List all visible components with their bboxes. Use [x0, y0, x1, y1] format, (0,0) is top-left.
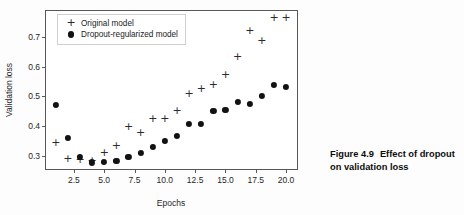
- data-point: [174, 133, 180, 139]
- y-axis-label: Validation loss: [4, 63, 14, 117]
- data-point: [160, 115, 169, 124]
- x-axis-tick-label: 20.0: [278, 175, 295, 185]
- data-point: [185, 90, 194, 99]
- data-point: [282, 13, 291, 22]
- y-axis-tick: [42, 156, 46, 157]
- plus-marker-icon: [63, 18, 79, 29]
- data-point: [283, 84, 289, 90]
- data-point: [222, 107, 228, 113]
- data-point: [162, 137, 168, 143]
- legend-label: Original model: [81, 19, 134, 28]
- data-point: [100, 148, 109, 157]
- x-axis-label: Epochs: [157, 198, 185, 208]
- x-axis-tick: [256, 169, 257, 173]
- data-point: [63, 155, 72, 164]
- data-point: [221, 70, 230, 79]
- y-axis-tick: [42, 126, 46, 127]
- data-point: [51, 138, 60, 147]
- data-point: [112, 141, 121, 150]
- x-axis-tick-label: 5.0: [98, 175, 110, 185]
- x-axis-tick: [165, 169, 166, 173]
- x-axis-tick: [135, 169, 136, 173]
- data-point: [269, 13, 278, 22]
- y-axis-tick: [42, 96, 46, 97]
- y-axis-tick: [42, 37, 46, 38]
- data-point: [245, 26, 254, 35]
- data-point: [65, 135, 71, 141]
- legend-marker: [67, 19, 76, 28]
- x-axis-tick-label: 12.5: [187, 175, 204, 185]
- data-point: [257, 36, 266, 45]
- y-axis-tick-label: 0.4: [28, 121, 40, 131]
- x-axis-tick: [286, 169, 287, 173]
- figure-container: 0.30.40.50.60.72.55.07.510.012.515.017.5…: [0, 0, 464, 215]
- data-point: [113, 158, 119, 164]
- x-axis-tick: [74, 169, 75, 173]
- chart-legend: Original modelDropout-regularized model: [57, 14, 186, 45]
- filled-circle-marker-icon: [63, 29, 79, 40]
- data-point: [197, 84, 206, 93]
- y-axis-tick-label: 0.3: [28, 151, 40, 161]
- data-point: [172, 107, 181, 116]
- data-point: [186, 121, 192, 127]
- y-axis-tick-label: 0.7: [28, 32, 40, 42]
- legend-entry: Dropout-regularized model: [63, 29, 178, 40]
- x-axis-tick-label: 15.0: [217, 175, 234, 185]
- figure-number: Figure 4.9: [330, 149, 374, 159]
- data-point: [101, 158, 107, 164]
- x-axis-tick-label: 17.5: [247, 175, 264, 185]
- x-axis-tick-label: 7.5: [129, 175, 141, 185]
- data-point: [137, 150, 143, 156]
- data-point: [125, 154, 131, 160]
- x-axis-tick-label: 10.0: [157, 175, 174, 185]
- legend-marker: [68, 31, 74, 37]
- data-point: [124, 123, 133, 132]
- data-point: [259, 93, 265, 99]
- x-axis-tick-label: 2.5: [68, 175, 80, 185]
- legend-entry: Original model: [63, 18, 178, 29]
- y-axis-tick: [42, 67, 46, 68]
- x-axis-tick: [104, 169, 105, 173]
- y-axis-tick-label: 0.5: [28, 91, 40, 101]
- data-point: [247, 101, 253, 107]
- legend-label: Dropout-regularized model: [81, 30, 178, 39]
- x-axis-tick: [195, 169, 196, 173]
- data-point: [136, 128, 145, 137]
- y-axis-tick-label: 0.6: [28, 62, 40, 72]
- data-point: [271, 81, 277, 87]
- data-point: [233, 52, 242, 61]
- data-point: [198, 121, 204, 127]
- data-point: [150, 144, 156, 150]
- data-point: [148, 115, 157, 124]
- x-axis-tick: [225, 169, 226, 173]
- figure-caption: Figure 4.9Effect of dropout on validatio…: [330, 148, 460, 173]
- data-point: [53, 102, 59, 108]
- data-point: [209, 80, 218, 89]
- data-point: [210, 108, 216, 114]
- data-point: [234, 99, 240, 105]
